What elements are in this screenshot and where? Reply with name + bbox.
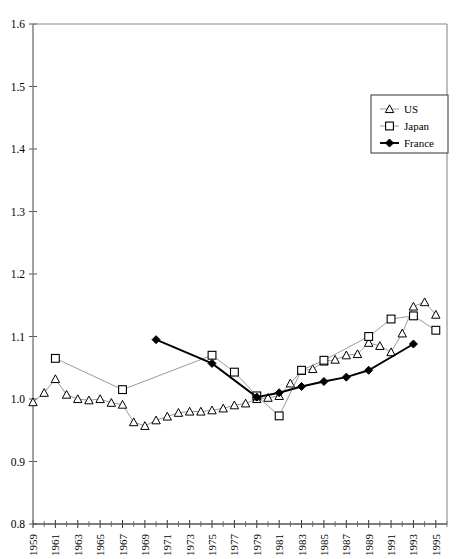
data-point-japan [410, 312, 418, 320]
legend-label-us: US [404, 103, 418, 115]
x-axis-tick-label: 1993 [407, 534, 419, 557]
x-axis-tick-label: 1969 [139, 534, 151, 557]
data-point-us [152, 416, 160, 424]
data-point-japan [432, 326, 440, 334]
data-point-us [219, 404, 227, 412]
data-point-us [376, 342, 384, 350]
x-axis-tick-label: 1963 [72, 534, 84, 557]
x-axis-tick-label: 1965 [94, 534, 106, 557]
legend-marker-japan [386, 122, 394, 130]
data-point-japan [208, 351, 216, 359]
x-axis-tick-label: 1995 [430, 534, 442, 557]
data-point-us [74, 395, 82, 403]
data-point-france [320, 378, 328, 386]
x-axis-tick-label: 1991 [385, 534, 397, 556]
x-axis-tick-label: 1983 [296, 534, 308, 557]
data-point-france [365, 366, 373, 374]
data-point-france [275, 389, 283, 397]
series-line-france [156, 340, 413, 398]
data-point-us [130, 418, 138, 426]
y-axis-tick-label: 1.5 [11, 81, 26, 93]
x-axis-tick-label: 1975 [206, 534, 218, 557]
x-axis-tick-label: 1987 [340, 534, 352, 557]
data-point-japan [119, 386, 127, 394]
data-point-france [409, 340, 417, 348]
x-axis-tick-label: 1973 [184, 534, 196, 557]
legend-label-france: France [404, 137, 434, 149]
y-axis-tick-label: 1.3 [11, 206, 26, 218]
chart-legend: USJapanFrance [371, 95, 448, 153]
data-point-us [331, 355, 339, 363]
x-axis-tick-label: 1985 [318, 534, 330, 557]
data-point-us [241, 399, 249, 407]
data-point-japan [298, 366, 306, 374]
data-point-us [309, 365, 317, 373]
data-point-us [107, 399, 115, 407]
y-axis-tick-label: 1.2 [11, 268, 26, 280]
data-point-japan [231, 368, 239, 376]
x-axis-tick-label: 1977 [228, 534, 240, 557]
y-axis-tick-label: 1.1 [11, 331, 26, 343]
data-point-japan [51, 354, 59, 362]
data-point-france [342, 373, 350, 381]
y-axis-tick-label: 0.9 [11, 456, 26, 468]
series-layer [29, 298, 440, 430]
x-axis-tick-label: 1967 [117, 534, 129, 557]
data-point-us [398, 329, 406, 337]
data-point-us [420, 298, 428, 306]
data-point-japan [320, 356, 328, 364]
data-point-japan [365, 333, 373, 341]
y-axis-tick-label: 1.4 [11, 143, 26, 155]
data-point-us [96, 395, 104, 403]
data-point-japan [387, 315, 395, 323]
line-chart: 0.80.91.01.11.21.31.41.51.6 195919611963… [0, 0, 465, 559]
x-axis-tick-label: 1989 [363, 534, 375, 557]
legend-label-japan: Japan [404, 120, 430, 132]
x-axis-tick-label: 1959 [27, 534, 39, 557]
data-point-france [152, 336, 160, 344]
y-axis-tick-label: 1.6 [11, 18, 26, 30]
y-axis-tick-label: 1.0 [11, 393, 26, 405]
chart-container: 0.80.91.01.11.21.31.41.51.6 195919611963… [0, 0, 465, 559]
x-axis-tick-label: 1981 [273, 534, 285, 556]
data-point-us [51, 375, 59, 383]
data-point-france [298, 383, 306, 391]
y-axis-tick-label: 0.8 [11, 518, 26, 530]
x-axis-tick-label: 1961 [49, 534, 61, 556]
data-point-japan [275, 412, 283, 420]
data-point-us [409, 302, 417, 310]
data-point-us [163, 412, 171, 420]
y-axis-tick-labels: 0.80.91.01.11.21.31.41.51.6 [11, 18, 26, 530]
x-axis-tick-label: 1971 [161, 534, 173, 556]
x-axis-tick-labels: 1959196119631965196719691971197319751977… [27, 534, 442, 557]
data-point-us [62, 390, 70, 398]
x-axis-tick-label: 1979 [251, 534, 263, 557]
data-point-us [141, 422, 149, 430]
